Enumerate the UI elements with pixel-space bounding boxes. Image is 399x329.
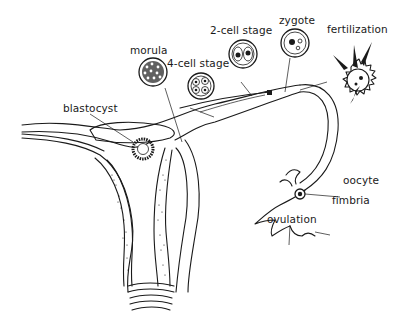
oocyte (295, 189, 305, 199)
label-two-cell-stage: 2-cell stage (210, 25, 272, 36)
fallopian-tube (180, 85, 338, 190)
two-cell-embryo (229, 40, 257, 68)
uterus (22, 85, 300, 310)
four-cell-embryo (188, 73, 214, 99)
label-morula: morula (130, 45, 168, 56)
diagram-drawing (0, 0, 399, 329)
label-ovulation: ovulation (267, 214, 317, 225)
label-zygote: zygote (279, 15, 315, 26)
label-four-cell-stage: 4-cell stage (167, 58, 229, 69)
fertilization-oocyte (333, 42, 376, 104)
reproductive-tract-diagram: morula 4-cell stage 2-cell stage zygote … (0, 0, 399, 329)
label-fimbria: fimbria (332, 195, 370, 206)
fimbria (255, 170, 315, 236)
label-blastocyst: blastocyst (63, 103, 118, 114)
label-oocyte: oocyte (343, 175, 379, 186)
zygote (281, 29, 309, 57)
label-fertilization: fertilization (327, 24, 388, 35)
morula (139, 58, 167, 86)
